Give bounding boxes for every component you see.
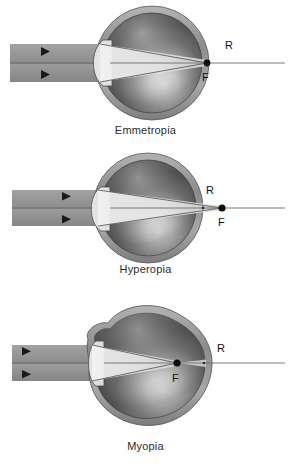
diagram-panel-hyperopia: R F Hyperopia	[0, 150, 291, 290]
focal-point-marker	[173, 359, 180, 366]
focal-point-label: F	[172, 372, 179, 384]
focal-point-marker	[218, 204, 225, 211]
eye-refraction-figure: R F Emmetropia	[0, 0, 291, 471]
far-point-marker	[202, 207, 205, 210]
far-point-label: R	[206, 184, 214, 196]
panel-caption-myopia: Myopia	[0, 440, 291, 452]
focal-point-label: F	[202, 71, 209, 83]
panel-caption-hyperopia: Hyperopia	[0, 263, 291, 275]
far-point-label: R	[225, 39, 233, 51]
diagram-panel-myopia: R F Myopia	[0, 290, 291, 471]
incident-light-beam	[12, 345, 95, 381]
focal-point-marker	[204, 60, 211, 67]
panel-caption-emmetropia: Emmetropia	[0, 124, 291, 136]
diagram-panel-emmetropia: R F Emmetropia	[0, 0, 291, 150]
focal-point-label: F	[218, 216, 225, 228]
far-point-marker	[203, 362, 206, 365]
far-point-label: R	[217, 342, 225, 354]
